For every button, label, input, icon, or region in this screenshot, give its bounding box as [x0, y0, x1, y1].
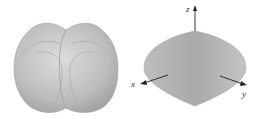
right-solid-figure: z x y — [130, 0, 260, 119]
z-axis-label: z — [185, 4, 190, 14]
right-solid-graphic: z x y — [130, 0, 260, 119]
x-axis-arrow-icon — [140, 80, 147, 85]
y-axis-arrow-icon — [240, 81, 247, 86]
left-solid-figure — [0, 0, 130, 119]
x-axis-label: x — [130, 79, 135, 89]
y-axis-label: y — [241, 89, 246, 99]
z-axis-arrow-icon — [193, 5, 197, 11]
left-solid-graphic — [0, 0, 130, 119]
